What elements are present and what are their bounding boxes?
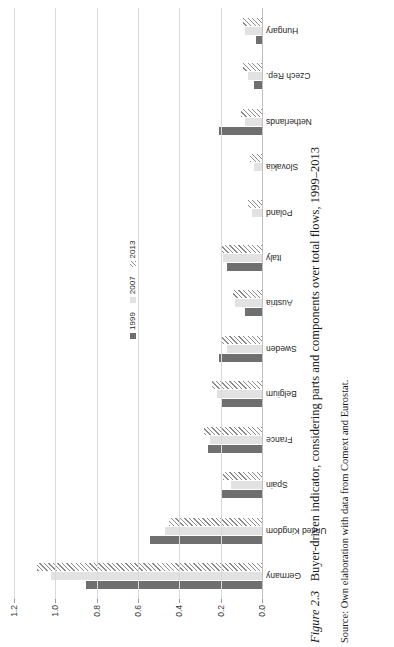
bar-2007: [231, 481, 262, 489]
bar-2007: [248, 72, 262, 80]
category-label: Netherlands: [266, 117, 312, 126]
plot-area: GermanyUnited KingdomSpainFranceBelgiumS…: [14, 8, 262, 599]
bar-2007: [254, 163, 262, 171]
category-label: Slovakia: [266, 163, 298, 172]
bar-1999: [150, 536, 262, 544]
category-label: Hungary: [266, 26, 298, 35]
category-label: Italy: [266, 254, 282, 263]
bar-2007: [51, 572, 262, 580]
figure-caption: Figure 2.3 Buyer-driven indicator, consi…: [308, 3, 324, 643]
category-label: Poland: [266, 208, 292, 217]
legend-swatch-icon-2013: [130, 261, 136, 267]
figure-caption-text: Buyer-driven indicator, considering part…: [308, 147, 322, 581]
bar-2007: [210, 436, 262, 444]
bar-2013: [243, 18, 262, 26]
axis-tickmark: [179, 599, 180, 603]
legend-item-1999: 1999: [128, 312, 137, 339]
rotated-page-wrapper: GermanyUnited KingdomSpainFranceBelgiumS…: [0, 0, 394, 647]
axis-tickmark: [221, 599, 222, 603]
category-label: France: [266, 436, 292, 445]
legend-swatch-icon-2007: [130, 297, 136, 303]
gridline: [55, 8, 56, 599]
bar-2013: [233, 290, 262, 298]
bar-1999: [254, 81, 262, 89]
axis-tickmark: [55, 599, 56, 603]
bar-1999: [227, 263, 262, 271]
bar-2007: [252, 209, 262, 217]
bar-2013: [250, 154, 262, 162]
gridline: [221, 8, 222, 599]
axis-tick-label: 0.8: [92, 605, 101, 617]
legend-label-1999: 1999: [128, 312, 137, 330]
bar-1999: [221, 490, 262, 498]
category-label: Czech Rep.: [266, 72, 310, 81]
bar-2013: [243, 63, 262, 71]
axis-tick-label: 0.6: [134, 605, 143, 617]
axis-tick-label: 1.0: [51, 605, 60, 617]
bar-1999: [86, 581, 262, 589]
axis-tick-label: 0.0: [258, 605, 267, 617]
chart-legend: 1999 2007 2013: [128, 241, 137, 339]
gridline: [262, 8, 263, 599]
bar-2007: [223, 254, 262, 262]
category-label: Austria: [266, 299, 292, 308]
bar-2013: [204, 427, 262, 435]
bar-2007: [217, 390, 262, 398]
bar-1999: [221, 399, 262, 407]
legend-label-2013: 2013: [128, 241, 137, 259]
figure-source: Source: Own elaboration with data from C…: [338, 3, 351, 643]
axis-tick-label: 1.2: [10, 605, 19, 617]
axis-tickmark: [262, 599, 263, 603]
axis-tickmark: [97, 599, 98, 603]
gridline: [97, 8, 98, 599]
bar-1999: [219, 354, 262, 362]
figure-number: Figure 2.3: [308, 591, 322, 643]
bar-2013: [241, 109, 262, 117]
bar-2013: [223, 472, 262, 480]
legend-item-2007: 2007: [128, 276, 137, 303]
bar-1999: [208, 445, 262, 453]
page: GermanyUnited KingdomSpainFranceBelgiumS…: [0, 0, 394, 647]
bar-2007: [227, 345, 262, 353]
bar-2007: [245, 118, 262, 126]
bar-1999: [219, 127, 262, 135]
legend-swatch-icon-1999: [130, 333, 136, 339]
gridline: [179, 8, 180, 599]
axis-tickmark: [138, 599, 139, 603]
bar-2013: [221, 336, 262, 344]
legend-item-2013: 2013: [128, 241, 137, 268]
bar-2013: [37, 563, 262, 571]
bar-2013: [221, 245, 262, 253]
chart-figure: GermanyUnited KingdomSpainFranceBelgiumS…: [8, 0, 286, 647]
axis-tick-label: 0.2: [216, 605, 225, 617]
category-label: Sweden: [266, 345, 297, 354]
bar-2013: [248, 200, 262, 208]
category-label: Germany: [266, 572, 301, 581]
gridline: [14, 8, 15, 599]
axis-tickmark: [14, 599, 15, 603]
category-label: Belgium: [266, 390, 297, 399]
legend-label-2007: 2007: [128, 276, 137, 294]
bar-1999: [245, 308, 262, 316]
bar-2013: [169, 518, 262, 526]
bar-2007: [245, 27, 262, 35]
category-label: Spain: [266, 481, 288, 490]
axis-tick-label: 0.4: [175, 605, 184, 617]
bar-2007: [235, 299, 262, 307]
gridline: [138, 8, 139, 599]
